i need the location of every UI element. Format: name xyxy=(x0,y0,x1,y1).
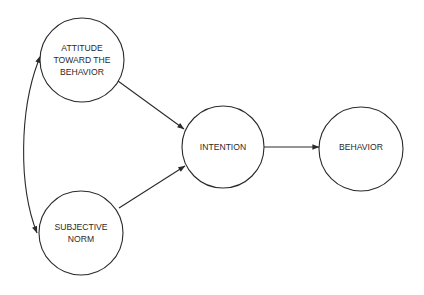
edge-attitude-to-intention xyxy=(118,81,184,129)
edge-attitude-norm-correlation xyxy=(24,62,38,233)
node-subjective-norm: SUBJECTIVE NORM xyxy=(39,191,123,275)
node-intention-label: INTENTION xyxy=(200,142,246,152)
node-attitude-label-line1: ATTITUDE xyxy=(61,43,103,53)
node-behavior: BEHAVIOR xyxy=(319,107,403,191)
node-intention: INTENTION xyxy=(182,106,264,188)
edge-norm-to-intention xyxy=(119,166,185,208)
node-norm-label-line1: SUBJECTIVE xyxy=(54,222,107,232)
node-norm-circle xyxy=(39,191,123,275)
node-behavior-label: BEHAVIOR xyxy=(339,142,383,152)
theory-of-reasoned-action-diagram: ATTITUDE TOWARD THE BEHAVIOR SUBJECTIVE … xyxy=(0,0,424,295)
node-norm-label-line2: NORM xyxy=(68,234,94,244)
node-attitude-label-line3: BEHAVIOR xyxy=(60,67,104,77)
node-attitude: ATTITUDE TOWARD THE BEHAVIOR xyxy=(40,18,124,102)
node-attitude-label-line2: TOWARD THE xyxy=(53,55,110,65)
